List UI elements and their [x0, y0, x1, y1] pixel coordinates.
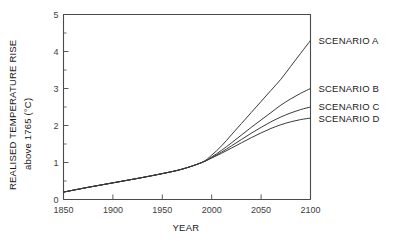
y-tick-label: 4: [53, 47, 58, 57]
temperature-rise-chart: REALISED TEMPERATURE RISE above 1765 (°C…: [0, 0, 396, 238]
series-line: [64, 89, 311, 193]
x-tick-label: 1850: [53, 205, 73, 215]
series-label: SCENARIO D: [319, 113, 380, 124]
y-axis-title-line1: REALISED TEMPERATURE RISE: [7, 40, 18, 190]
axis-frame-path: [64, 15, 311, 200]
data-series-group: [64, 40, 311, 192]
y-axis-title-line2: above 1765 (°C): [22, 98, 33, 170]
x-axis-ticks: 185019001950200020502100: [53, 195, 320, 215]
series-labels-group: SCENARIO ASCENARIO BSCENARIO CSCENARIO D: [319, 35, 380, 124]
axis-frame: [64, 15, 311, 200]
series-line: [64, 118, 311, 192]
x-tick-label: 2100: [300, 205, 320, 215]
y-axis-ticks: 012345: [53, 10, 68, 205]
y-tick-label: 0: [53, 195, 58, 205]
series-label: SCENARIO A: [319, 35, 380, 46]
y-tick-label: 1: [53, 158, 58, 168]
chart-canvas: REALISED TEMPERATURE RISE above 1765 (°C…: [0, 0, 396, 238]
series-line: [64, 107, 311, 192]
y-tick-label: 5: [53, 10, 58, 20]
y-tick-label: 3: [53, 84, 58, 94]
x-tick-label: 2050: [251, 205, 271, 215]
series-label: SCENARIO C: [319, 101, 380, 112]
series-label: SCENARIO B: [319, 83, 380, 94]
series-line: [64, 40, 311, 192]
y-tick-label: 2: [53, 121, 58, 131]
y-axis-title: REALISED TEMPERATURE RISE above 1765 (°C…: [7, 40, 33, 190]
x-axis-title: YEAR: [172, 222, 199, 233]
x-tick-label: 2000: [202, 205, 222, 215]
x-tick-label: 1900: [103, 205, 123, 215]
x-tick-label: 1950: [152, 205, 172, 215]
